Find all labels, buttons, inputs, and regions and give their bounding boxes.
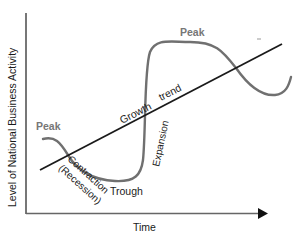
business-cycle-diagram: Peak Peak Trough Growth trend Contractio… — [0, 0, 304, 237]
growth-label: Growth — [117, 100, 153, 126]
peak-left-label: Peak — [36, 120, 61, 132]
peak-right-label: Peak — [180, 26, 205, 38]
x-axis-arrow-icon — [258, 208, 268, 219]
x-axis-label: Time — [133, 221, 156, 233]
trend-label: trend — [156, 81, 183, 103]
y-axis-label: Level of National Business Activity — [6, 47, 18, 207]
trough-label: Trough — [110, 185, 143, 197]
expansion-label: Expansion — [150, 119, 170, 167]
